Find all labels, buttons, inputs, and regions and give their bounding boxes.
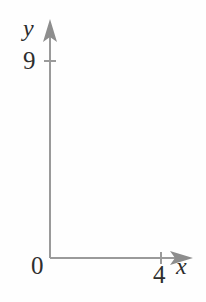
origin-label: 0 (31, 253, 44, 278)
coordinate-axes-figure: y x 9 0 4 (0, 0, 206, 302)
x-axis-label: x (176, 254, 187, 278)
x-tick-label-4: 4 (153, 262, 166, 287)
y-tick-label-9: 9 (23, 48, 36, 73)
y-axis-label: y (23, 16, 34, 40)
